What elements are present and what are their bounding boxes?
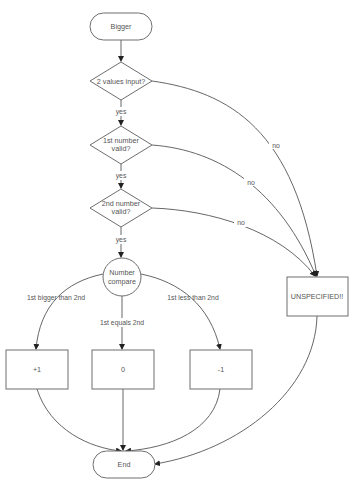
start-label: Bigger (111, 22, 132, 31)
node-result-plus-one: +1 (6, 350, 68, 389)
end-label: End (118, 460, 131, 469)
node-start: Bigger (90, 13, 152, 40)
edges (36, 40, 317, 464)
cmp-label-2: compare (108, 277, 136, 286)
edge-labels: yes yes yes no no no 1st bigger than 2nd… (27, 107, 282, 327)
edge-d1-no (152, 81, 317, 276)
node-decision-second-valid: 2nd number valid? (90, 189, 152, 227)
label-bigger: 1st bigger than 2nd (27, 294, 85, 302)
node-decision-values-input: 2 values input? (90, 62, 152, 100)
label-d2-no: no (247, 179, 255, 186)
label-d3-no: no (237, 219, 245, 226)
edge-less (141, 274, 220, 349)
label-d1-yes: yes (116, 108, 127, 116)
zero-label: 0 (121, 365, 125, 374)
edge-unspec-to-end (155, 316, 317, 464)
node-result-minus-one: -1 (190, 350, 252, 389)
cmp-label-1: Number (109, 268, 135, 277)
edge-minus-to-end (126, 389, 220, 451)
d2-label-2: valid? (112, 144, 131, 153)
node-decision-first-valid: 1st number valid? (90, 126, 152, 164)
edge-d3-no (152, 208, 315, 276)
label-d3-yes: yes (116, 236, 127, 244)
plus-label: +1 (33, 365, 41, 374)
flowchart-canvas: yes yes yes no no no 1st bigger than 2nd… (0, 0, 355, 484)
label-equals: 1st equals 2nd (100, 319, 144, 327)
label-less: 1st less than 2nd (167, 294, 219, 301)
node-number-compare: Number compare (103, 258, 141, 296)
edge-plus-to-end (37, 389, 121, 451)
unspec-label: UNSPECIFIED!! (291, 292, 343, 301)
edge-d2-no (152, 145, 316, 276)
d3-label-2: valid? (112, 207, 131, 216)
node-result-zero: 0 (92, 350, 154, 389)
label-d1-no: no (272, 142, 280, 149)
node-end: End (93, 451, 155, 478)
minus-label: -1 (218, 365, 224, 374)
d1-label: 2 values input? (97, 77, 145, 86)
label-d2-yes: yes (116, 172, 127, 180)
node-unspecified: UNSPECIFIED!! (287, 277, 348, 316)
edge-bigger (36, 274, 103, 349)
